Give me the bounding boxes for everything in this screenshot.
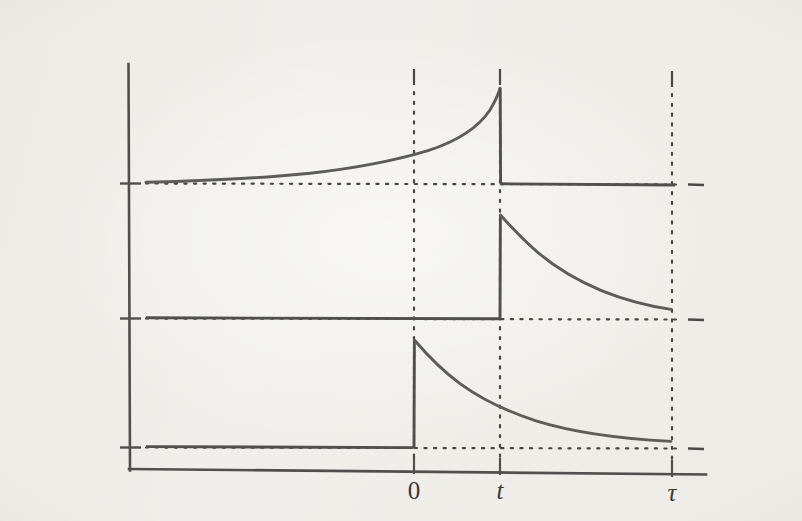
curve-top-path: [146, 88, 500, 182]
curve-middle-decay-path: [500, 215, 671, 309]
stub-bottom: [688, 449, 704, 450]
top-guide-caps: [414, 69, 672, 87]
curve-bottom-decay-path: [414, 340, 671, 441]
figure-root: 0 t τ: [0, 0, 802, 521]
curve-middle-decaying-exponential: [146, 215, 671, 319]
stub-top: [688, 185, 704, 186]
stub-middle: [688, 320, 704, 321]
curve-bottom-decaying-exponential: [146, 340, 671, 448]
curve-top-rising-exponential: [146, 88, 675, 185]
baseline-end-stubs: [688, 185, 704, 450]
x-tick-label-t: t: [475, 477, 525, 505]
x-tick-label-tau: τ: [647, 479, 697, 507]
horizontal-dotted-baselines: [146, 184, 676, 449]
x-tick-label-zero: 0: [389, 477, 439, 505]
y-axis-line: [129, 64, 131, 471]
curve-middle-flat-before-t: [146, 318, 500, 319]
curve-top-flat-after-t: [501, 184, 675, 185]
vertical-dotted-guides: [414, 92, 672, 463]
x-axis-line: [129, 469, 706, 475]
plot-canvas: [0, 0, 802, 521]
curve-bottom-flat-before-zero: [146, 447, 414, 448]
axis-lines: [129, 64, 707, 475]
